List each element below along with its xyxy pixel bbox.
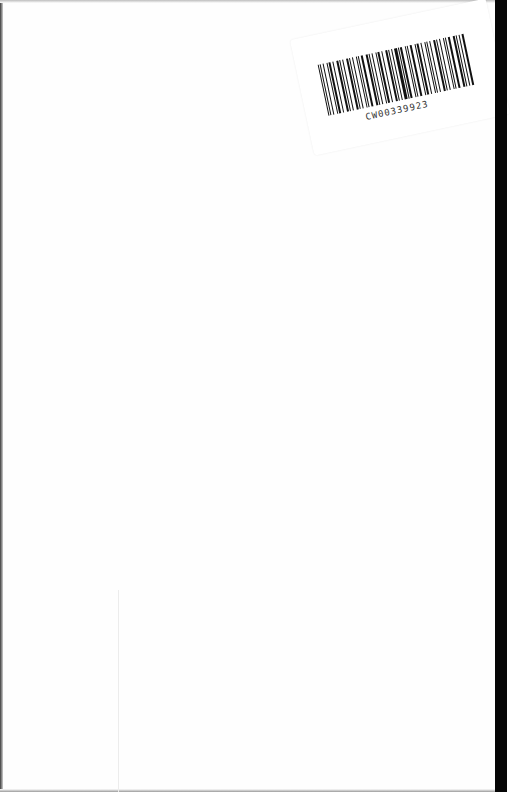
scan-edge-strip [495, 0, 507, 792]
page-top-edge-shadow [0, 0, 495, 3]
barcode-icon [318, 34, 476, 116]
page-left-edge-shadow [0, 0, 3, 792]
scanned-page: CW00339923 [0, 0, 495, 792]
page-crease [118, 590, 119, 792]
barcode-sticker: CW00339923 [290, 0, 510, 156]
